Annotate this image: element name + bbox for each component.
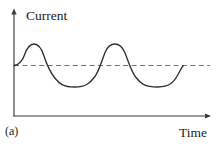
y-axis-arrow-icon [11, 9, 16, 15]
y-axis [11, 9, 16, 117]
x-axis [14, 113, 211, 118]
x-axis-title: Time [179, 126, 207, 140]
figure-panel-a: Current Time (a) [0, 0, 217, 144]
panel-label: (a) [5, 125, 18, 137]
x-axis-arrow-icon [205, 113, 211, 118]
y-axis-title: Current [26, 9, 67, 23]
